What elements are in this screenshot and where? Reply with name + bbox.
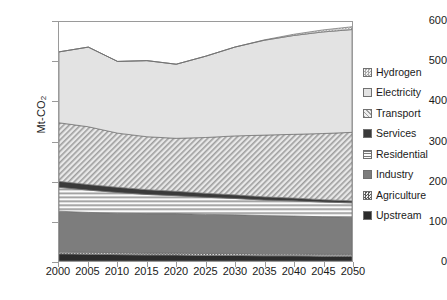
- chart-legend: HydrogenElectricityTransportServicesResi…: [363, 62, 445, 226]
- legend-item-label: Agriculture: [376, 190, 426, 201]
- y-axis-title-text: Mt-CO: [35, 100, 47, 133]
- y-tick-label: 0: [401, 256, 447, 267]
- x-tick-mark: [265, 262, 266, 267]
- legend-item-label: Services: [376, 128, 416, 139]
- area-series-industry: [59, 211, 352, 254]
- legend-swatch-icon: [363, 150, 372, 159]
- legend-swatch-icon: [363, 68, 372, 77]
- area-series-group: [59, 27, 352, 261]
- legend-item-residential[interactable]: Residential: [363, 144, 445, 165]
- legend-item-label: Transport: [376, 108, 421, 119]
- legend-swatch-icon: [363, 129, 372, 138]
- legend-swatch-icon: [363, 170, 372, 179]
- legend-swatch-icon: [363, 191, 372, 200]
- stacked-area-chart: Mt-CO2 0100200300400500600: [0, 0, 447, 300]
- x-tick-mark: [294, 262, 295, 267]
- legend-item-transport[interactable]: Transport: [363, 103, 445, 124]
- legend-item-services[interactable]: Services: [363, 124, 445, 145]
- plot-svg: [59, 22, 352, 261]
- legend-item-label: Industry: [376, 169, 413, 180]
- y-axis-title-subscript: 2: [39, 95, 48, 100]
- x-tick-label: 2050: [333, 266, 373, 277]
- x-tick-mark: [206, 262, 207, 267]
- legend-swatch-icon: [363, 109, 372, 118]
- legend-item-label: Residential: [376, 149, 428, 160]
- x-tick-mark: [147, 262, 148, 267]
- plot-area: [58, 21, 353, 262]
- x-tick-mark: [324, 262, 325, 267]
- legend-item-hydrogen[interactable]: Hydrogen: [363, 62, 445, 83]
- legend-item-electricity[interactable]: Electricity: [363, 83, 445, 104]
- legend-swatch-icon: [363, 88, 372, 97]
- legend-item-agriculture[interactable]: Agriculture: [363, 185, 445, 206]
- y-tick-label: 600: [401, 15, 447, 26]
- x-tick-mark: [58, 262, 59, 267]
- legend-item-label: Upstream: [376, 210, 422, 221]
- legend-item-label: Electricity: [376, 87, 421, 98]
- x-tick-mark: [88, 262, 89, 267]
- legend-item-upstream[interactable]: Upstream: [363, 206, 445, 227]
- x-tick-mark: [117, 262, 118, 267]
- x-tick-mark: [353, 262, 354, 267]
- y-axis-title: Mt-CO2: [35, 70, 48, 160]
- legend-item-industry[interactable]: Industry: [363, 165, 445, 186]
- legend-swatch-icon: [363, 211, 372, 220]
- x-tick-mark: [176, 262, 177, 267]
- legend-item-label: Hydrogen: [376, 67, 422, 78]
- area-series-electricity: [59, 30, 352, 139]
- x-tick-mark: [235, 262, 236, 267]
